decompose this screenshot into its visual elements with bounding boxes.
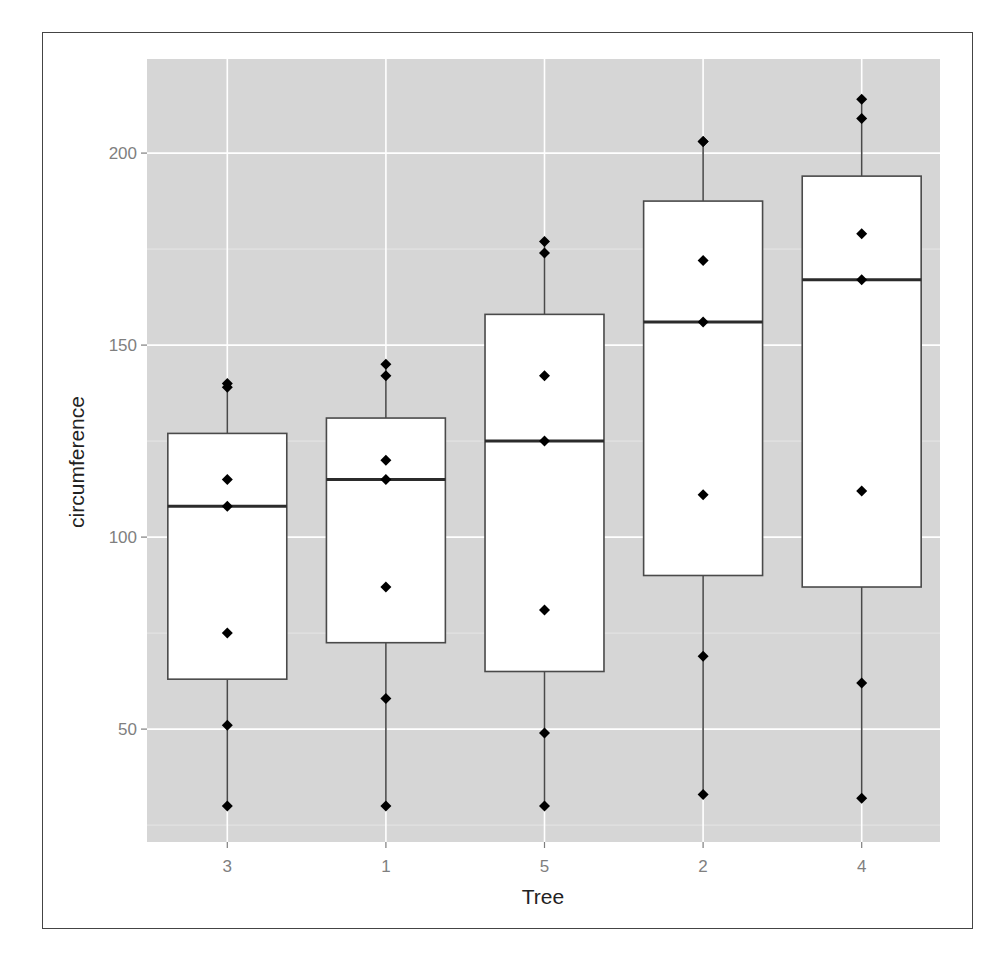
box-iqr <box>326 418 445 643</box>
x-tick-label: 3 <box>223 857 232 876</box>
box-iqr <box>485 314 604 671</box>
y-tick-label: 200 <box>109 144 137 163</box>
x-axis-title: Tree <box>522 885 564 908</box>
y-tick-label: 50 <box>118 720 137 739</box>
x-tick-label: 2 <box>698 857 707 876</box>
y-axis: 50100150200 <box>109 144 147 739</box>
boxplot-chart: 50100150200 31524 Tree circumference <box>0 0 1007 965</box>
x-tick-label: 4 <box>857 857 866 876</box>
x-tick-label: 5 <box>540 857 549 876</box>
y-tick-label: 150 <box>109 336 137 355</box>
y-tick-label: 100 <box>109 528 137 547</box>
x-tick-label: 1 <box>381 857 390 876</box>
y-axis-title: circumference <box>65 396 88 528</box>
box-iqr <box>168 433 287 679</box>
x-axis: 31524 <box>223 842 867 876</box>
